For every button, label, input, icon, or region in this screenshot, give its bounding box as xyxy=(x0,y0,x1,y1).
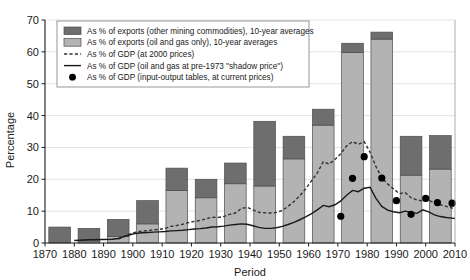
x-tick-label: 1970 xyxy=(326,248,350,260)
x-tick-label: 1980 xyxy=(355,248,379,260)
legend-swatch-icon xyxy=(64,39,81,47)
scatter-point-gdp-io-tables xyxy=(349,175,356,182)
y-tick-label: 20 xyxy=(27,173,39,185)
bar-segment-other-mining xyxy=(342,43,364,52)
y-axis-ticks: 010203040506070 xyxy=(27,14,45,249)
y-tick-label: 40 xyxy=(27,110,39,122)
y-tick-label: 70 xyxy=(27,14,39,26)
scatter-point-gdp-io-tables xyxy=(434,199,441,206)
legend-label: As % of GDP (oil and gas at pre-1973 "sh… xyxy=(87,62,283,71)
x-tick-label: 1920 xyxy=(179,248,203,260)
bar-segment-oil-gas xyxy=(166,190,188,243)
bar-segment-other-mining xyxy=(49,227,71,243)
bar-segment-other-mining xyxy=(166,168,188,190)
scatter-point-gdp-io-tables xyxy=(337,213,344,220)
bar-segment-other-mining xyxy=(283,136,305,159)
chart-container: 010203040506070 187018801890190019101920… xyxy=(0,0,470,280)
legend-label: As % of GDP (input-output tables, at cur… xyxy=(87,73,274,82)
legend-label: As % of exports (oil and gas only), 10-y… xyxy=(87,38,277,47)
x-tick-label: 1890 xyxy=(91,248,115,260)
bar-segment-other-mining xyxy=(430,136,452,169)
scatter-point-gdp-io-tables xyxy=(422,195,429,202)
bar-segment-other-mining xyxy=(137,201,159,224)
x-tick-label: 1950 xyxy=(267,248,291,260)
y-tick-label: 60 xyxy=(27,46,39,58)
x-axis-title: Period xyxy=(234,266,266,278)
bar-segment-other-mining xyxy=(312,109,334,125)
scatter-point-gdp-io-tables xyxy=(448,200,455,207)
y-axis-title: Percentage xyxy=(4,112,16,168)
scatter-point-gdp-io-tables xyxy=(361,153,368,160)
oil-gas-percentage-chart: 010203040506070 187018801890190019101920… xyxy=(0,0,470,280)
bar-segment-oil-gas xyxy=(312,125,334,243)
bar-segment-oil-gas xyxy=(400,175,422,243)
x-tick-label: 2000 xyxy=(413,248,437,260)
bar-segment-other-mining xyxy=(371,32,393,39)
y-tick-label: 30 xyxy=(27,141,39,153)
bar-segment-oil-gas xyxy=(342,52,364,243)
bar-segment-oil-gas xyxy=(371,39,393,243)
bar-segment-oil-gas xyxy=(430,169,452,243)
x-tick-label: 1910 xyxy=(150,248,174,260)
x-tick-label: 1990 xyxy=(384,248,408,260)
bar-segment-other-mining xyxy=(195,179,217,197)
legend-label: As % of exports (other mining commoditie… xyxy=(87,27,314,36)
y-tick-label: 10 xyxy=(27,205,39,217)
bar-segment-other-mining xyxy=(225,163,247,184)
x-tick-label: 1960 xyxy=(296,248,320,260)
bar-segment-oil-gas xyxy=(254,186,276,243)
x-tick-label: 1900 xyxy=(121,248,145,260)
legend-label: As % of GDP (at 2000 prices) xyxy=(87,50,195,59)
x-tick-label: 1930 xyxy=(208,248,232,260)
x-tick-label: 1880 xyxy=(62,248,86,260)
x-tick-label: 1940 xyxy=(238,248,262,260)
x-tick-label: 2010 xyxy=(443,248,467,260)
legend-swatch-icon xyxy=(64,27,81,35)
y-tick-label: 50 xyxy=(27,78,39,90)
x-tick-label: 1870 xyxy=(33,248,57,260)
bar-segment-other-mining xyxy=(254,121,276,186)
scatter-point-gdp-io-tables xyxy=(393,197,400,204)
scatter-point-gdp-io-tables xyxy=(407,211,414,218)
x-axis-ticks: 1870188018901900191019201930194019501960… xyxy=(33,243,467,260)
bar-segment-other-mining xyxy=(107,219,129,236)
scatter-point-gdp-io-tables xyxy=(378,174,385,181)
legend-dot-icon xyxy=(69,74,76,81)
chart-legend: As % of exports (other mining commoditie… xyxy=(57,21,314,87)
bar-segment-other-mining xyxy=(400,136,422,175)
